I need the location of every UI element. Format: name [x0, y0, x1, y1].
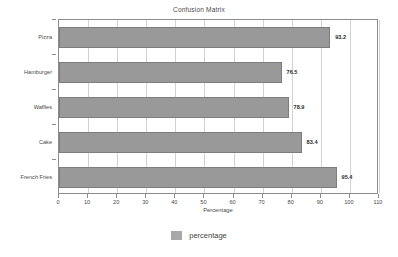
x-axis-tick-label: 110 — [374, 199, 383, 205]
bar-row: 78.9 — [59, 97, 377, 119]
bar-cake[interactable] — [59, 132, 302, 154]
x-axis-tick-label: 80 — [288, 199, 294, 205]
legend-label-percentage: percentage — [189, 231, 227, 240]
x-axis-tick — [87, 194, 88, 198]
x-axis-tick — [349, 194, 350, 198]
x-axis-tick-label: 100 — [344, 199, 353, 205]
x-axis-tick-label: 60 — [229, 199, 235, 205]
y-axis-tick — [52, 159, 56, 160]
bar-pizza[interactable] — [59, 27, 330, 49]
bar-waffles[interactable] — [59, 97, 289, 119]
y-axis-tick — [52, 89, 56, 90]
x-axis-tick — [116, 194, 117, 198]
bar-value-label: 76.5 — [287, 69, 298, 75]
y-axis-tick — [52, 124, 56, 125]
bar-row: 95.4 — [59, 167, 377, 189]
x-axis-tick — [145, 194, 146, 198]
x-axis-tick-label: 30 — [142, 199, 148, 205]
x-axis-tick-label: 20 — [113, 199, 119, 205]
bar-value-label: 83.4 — [307, 139, 318, 145]
y-axis-category-labels: PizzaHamburgerWafflesCakeFrench Fries — [0, 19, 56, 194]
y-axis-tick — [52, 54, 56, 55]
chart-container: Confusion Matrix 93.276.578.983.495.4 Pi… — [0, 0, 398, 257]
x-axis-tick-label: 40 — [171, 199, 177, 205]
gridline — [379, 20, 380, 193]
x-axis-tick — [262, 194, 263, 198]
bar-row: 76.5 — [59, 62, 377, 84]
x-axis-tick-label: 10 — [84, 199, 90, 205]
x-axis-tick-label: 50 — [200, 199, 206, 205]
y-axis-label-cake: Cake — [39, 139, 52, 145]
bar-value-label: 93.2 — [335, 34, 346, 40]
x-axis-tick-label: 90 — [317, 199, 323, 205]
x-axis-tick-label: 0 — [56, 199, 59, 205]
y-axis-label-hamburger: Hamburger — [24, 69, 52, 75]
x-axis-tick — [203, 194, 204, 198]
y-axis-label-pizza: Pizza — [38, 34, 52, 40]
x-axis-tick — [58, 194, 59, 198]
bars-layer: 93.276.578.983.495.4 — [59, 20, 377, 193]
x-axis-tick — [174, 194, 175, 198]
plot-area: 93.276.578.983.495.4 — [58, 19, 378, 194]
x-axis-tick — [233, 194, 234, 198]
bar-row: 83.4 — [59, 132, 377, 154]
y-axis-label-french-fries: French Fries — [21, 174, 52, 180]
x-axis-tick — [291, 194, 292, 198]
bar-value-label: 95.4 — [342, 174, 353, 180]
x-axis-tick-label: 70 — [259, 199, 265, 205]
x-axis: Percentage 0102030405060708090100110 — [58, 194, 378, 224]
chart-title: Confusion Matrix — [0, 6, 398, 13]
bar-hamburger[interactable] — [59, 62, 282, 84]
x-axis-tick — [378, 194, 379, 198]
bar-row: 93.2 — [59, 27, 377, 49]
x-axis-title: Percentage — [58, 207, 378, 213]
legend-swatch-percentage — [171, 231, 182, 240]
legend: percentage — [0, 231, 398, 240]
y-axis-label-waffles: Waffles — [34, 104, 52, 110]
bar-french-fries[interactable] — [59, 167, 337, 189]
x-axis-tick — [320, 194, 321, 198]
y-axis-tick — [52, 19, 56, 20]
bar-value-label: 78.9 — [294, 104, 305, 110]
